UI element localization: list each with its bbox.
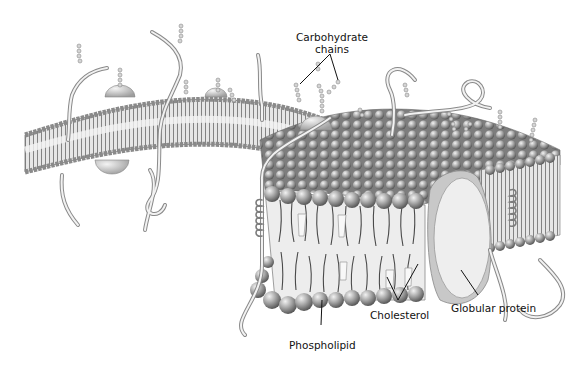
right-bilayer xyxy=(480,153,560,253)
label-cholesterol: Cholesterol xyxy=(370,309,429,321)
cell-membrane-diagram: Carbohydrate chains Globular protein Cho… xyxy=(0,0,581,372)
label-carbohydrate-line1: Carbohydrate xyxy=(292,31,372,43)
label-carbohydrate-chains: Carbohydrate chains xyxy=(292,31,372,55)
label-globular-protein: Globular protein xyxy=(451,302,536,314)
label-phospholipid: Phospholipid xyxy=(289,339,356,351)
membrane-illustration xyxy=(0,0,581,372)
globular-protein xyxy=(428,171,492,304)
label-carbohydrate-line2: chains xyxy=(292,43,372,55)
cut-face xyxy=(250,186,425,314)
